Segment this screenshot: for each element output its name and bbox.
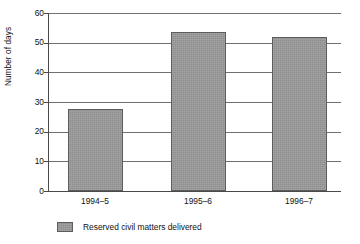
x-axis-line	[48, 191, 341, 192]
bar-1995–6	[171, 32, 226, 191]
plot-area: Number of days 0102030405060 1994–51995–…	[0, 0, 360, 205]
y-tick-label-20: 20	[18, 127, 44, 135]
y-tick-label-60: 60	[18, 9, 44, 17]
x-tick-label-1994–5: 1994–5	[50, 196, 140, 206]
y-tick-label-10: 10	[18, 157, 44, 165]
y-axis-line	[48, 13, 49, 192]
y-tick-label-30: 30	[18, 98, 44, 106]
x-tick-label-1996–7: 1996–7	[254, 196, 344, 206]
chart-legend: Reserved civil matters delivered	[57, 222, 202, 232]
gridline-60	[49, 13, 341, 14]
y-axis-title: Number of days	[4, 2, 13, 112]
bar-1994–5	[68, 109, 123, 191]
legend-swatch-reserved-civil-matters-delivered	[57, 222, 73, 232]
x-tick-label-1995–6: 1995–6	[153, 196, 243, 206]
y-tick-label-40: 40	[18, 68, 44, 76]
legend-label-reserved-civil-matters-delivered: Reserved civil matters delivered	[83, 222, 202, 232]
bar-chart-figure: Number of days 0102030405060 1994–51995–…	[0, 0, 360, 244]
bar-1996–7	[272, 37, 327, 191]
y-tick-label-0: 0	[18, 187, 44, 195]
y-tick-label-50: 50	[18, 38, 44, 46]
